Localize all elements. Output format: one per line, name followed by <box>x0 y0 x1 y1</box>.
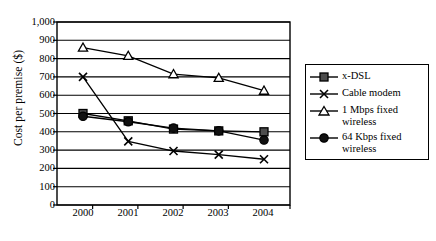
data-point <box>169 124 177 132</box>
x-cross-marker-icon <box>310 88 338 100</box>
legend-label: Cable modem <box>342 87 424 99</box>
square-marker-icon <box>310 71 338 83</box>
series-1-mbps-fixed-wireless <box>78 43 268 94</box>
data-point <box>78 43 87 51</box>
legend-item-cable-modem[interactable]: Cable modem <box>310 87 424 100</box>
legend-item-64kbps-fixed-wireless[interactable]: 64 Kbps fixed wireless <box>310 131 424 154</box>
triangle-marker-icon <box>310 105 338 117</box>
legend-label: 1 Mbps fixed wireless <box>342 104 424 127</box>
legend-item-x-dsl[interactable]: x-DSL <box>310 70 424 83</box>
data-point <box>260 136 268 144</box>
legend-item-1mbps-fixed-wireless[interactable]: 1 Mbps fixed wireless <box>310 104 424 127</box>
data-point <box>215 127 223 135</box>
legend-label: x-DSL <box>342 70 424 82</box>
circle-marker-icon <box>310 132 338 144</box>
data-point <box>124 118 132 126</box>
data-point <box>79 112 87 120</box>
data-point <box>169 70 178 78</box>
legend-label: 64 Kbps fixed wireless <box>342 131 424 154</box>
data-series-group <box>78 43 268 163</box>
legend: x-DSL Cable modem 1 Mbps fixed wireless <box>305 64 429 160</box>
data-point <box>260 128 268 136</box>
line-chart: Cost per premise ($) 1,000 900 800 700 6… <box>0 0 436 241</box>
